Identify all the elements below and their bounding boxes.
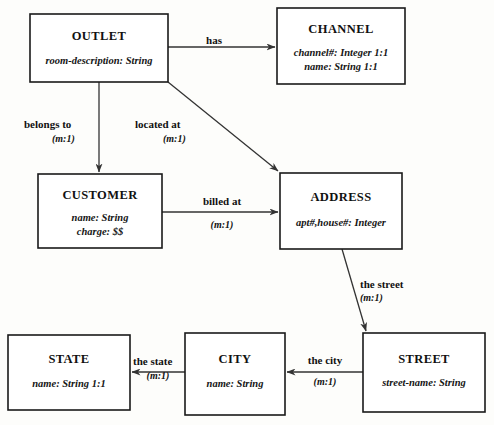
entity-street-title: STREET (398, 352, 450, 366)
rel-card-billed-at: (m:1) (211, 219, 234, 231)
entity-customer-title: CUSTOMER (62, 188, 138, 202)
er-diagram: OUTLET room-description: String CHANNEL … (0, 0, 494, 425)
entity-city[interactable]: CITY name: String (185, 333, 285, 415)
rel-label-the-city: the city (308, 354, 343, 366)
entity-address-attr-0: apt#,house#: Integer (296, 217, 387, 228)
rel-card-the-state: (m:1) (147, 370, 170, 382)
entity-outlet[interactable]: OUTLET room-description: String (30, 14, 168, 82)
rel-label-located-at: located at (135, 118, 181, 130)
entity-city-attr-0: name: String (207, 378, 264, 389)
connector-the-street (342, 249, 366, 331)
entity-state-title: STATE (48, 352, 89, 366)
entity-channel-attr-1: name: String 1:1 (304, 61, 378, 72)
rel-card-belongs-to: (m:1) (52, 133, 75, 145)
entity-state-attr-0: name: String 1:1 (32, 378, 106, 389)
rel-label-the-street: the street (360, 278, 404, 290)
entity-channel-attr-0: channel#: Integer 1:1 (294, 47, 389, 58)
entity-address-title: ADDRESS (310, 190, 371, 204)
entity-street[interactable]: STREET street-name: String (363, 333, 485, 412)
entity-customer-attr-0: name: String (72, 212, 129, 223)
entity-street-attr-0: street-name: String (381, 377, 466, 388)
entity-outlet-title: OUTLET (72, 29, 127, 43)
entity-channel-title: CHANNEL (308, 22, 373, 36)
rel-label-has: has (206, 34, 223, 46)
entity-customer-attr-1: charge: $$ (77, 226, 124, 237)
rel-label-billed-at: billed at (203, 195, 242, 207)
entity-address[interactable]: ADDRESS apt#,house#: Integer (280, 173, 402, 249)
entity-channel[interactable]: CHANNEL channel#: Integer 1:1 name: Stri… (277, 8, 405, 84)
connector-located-at (168, 82, 278, 171)
entity-city-title: CITY (219, 352, 252, 366)
rel-card-located-at: (m:1) (163, 133, 186, 145)
rel-card-the-city: (m:1) (314, 376, 337, 388)
rel-label-the-state: the state (133, 355, 173, 367)
er-diagram-canvas: OUTLET room-description: String CHANNEL … (0, 0, 494, 425)
entity-state[interactable]: STATE name: String 1:1 (8, 335, 130, 410)
entity-customer[interactable]: CUSTOMER name: String charge: $$ (38, 174, 162, 248)
rel-label-belongs-to: belongs to (24, 118, 72, 130)
rel-card-the-street: (m:1) (360, 292, 383, 304)
entity-outlet-attr-0: room-description: String (45, 55, 152, 66)
